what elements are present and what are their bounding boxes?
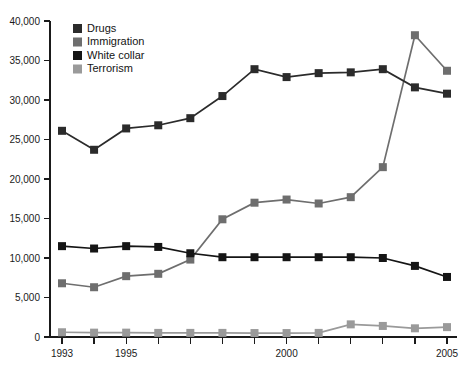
- chart-legend: DrugsImmigrationWhite collarTerrorism: [73, 22, 145, 75]
- data-point-marker: [315, 199, 323, 207]
- x-axis-tick-label: 2005: [436, 348, 459, 359]
- data-point-marker: [251, 329, 259, 337]
- y-axis-tick-label: 20,000: [9, 174, 40, 185]
- data-point-marker: [283, 253, 291, 261]
- series-drugs: [58, 65, 451, 154]
- y-axis-tick-label: 5,000: [15, 292, 40, 303]
- y-axis-ticks: 05,00010,00015,00020,00025,00030,00035,0…: [9, 16, 50, 343]
- data-point-marker: [154, 329, 162, 337]
- data-point-marker: [347, 68, 355, 76]
- data-point-marker: [347, 320, 355, 328]
- data-point-marker: [315, 253, 323, 261]
- data-point-marker: [58, 279, 66, 287]
- data-point-marker: [154, 243, 162, 251]
- data-point-marker: [379, 65, 387, 73]
- data-point-marker: [122, 272, 130, 280]
- data-point-marker: [218, 253, 226, 261]
- y-axis-tick-label: 40,000: [9, 16, 40, 27]
- data-point-marker: [411, 324, 419, 332]
- data-point-marker: [218, 92, 226, 100]
- legend-swatch: [73, 24, 82, 33]
- line-chart: 05,00010,00015,00020,00025,00030,00035,0…: [0, 0, 472, 370]
- x-axis-tick-label: 1995: [115, 348, 138, 359]
- data-point-marker: [251, 65, 259, 73]
- data-point-marker: [347, 193, 355, 201]
- legend-swatch: [73, 65, 82, 74]
- series-white-collar: [58, 242, 451, 281]
- data-point-marker: [186, 114, 194, 122]
- data-point-marker: [58, 242, 66, 250]
- legend-item-white-collar: White collar: [73, 49, 145, 61]
- data-point-marker: [90, 245, 98, 253]
- y-axis-tick-label: 10,000: [9, 253, 40, 264]
- data-point-marker: [283, 329, 291, 337]
- chart-plot-area: 05,00010,00015,00020,00025,00030,00035,0…: [0, 0, 472, 370]
- data-point-marker: [379, 322, 387, 330]
- series-terrorism: [58, 320, 451, 337]
- data-point-marker: [315, 329, 323, 337]
- data-point-marker: [411, 262, 419, 270]
- data-point-marker: [411, 31, 419, 39]
- y-axis-tick-label: 15,000: [9, 213, 40, 224]
- data-point-marker: [58, 127, 66, 135]
- data-point-marker: [443, 273, 451, 281]
- data-point-marker: [154, 270, 162, 278]
- x-axis-tick-label: 1993: [51, 348, 74, 359]
- data-point-marker: [218, 329, 226, 337]
- data-point-marker: [379, 254, 387, 262]
- x-axis-ticks: 1993199520002005: [51, 337, 459, 359]
- y-axis-tick-label: 35,000: [9, 55, 40, 66]
- legend-swatch: [73, 38, 82, 47]
- data-point-marker: [186, 329, 194, 337]
- y-axis-tick-label: 25,000: [9, 134, 40, 145]
- x-axis-tick-label: 2000: [275, 348, 298, 359]
- legend-label: White collar: [87, 49, 145, 61]
- data-point-marker: [90, 146, 98, 154]
- data-point-marker: [186, 249, 194, 257]
- legend-label: Immigration: [87, 35, 144, 47]
- data-point-marker: [218, 215, 226, 223]
- legend-label: Terrorism: [87, 62, 133, 74]
- y-axis-tick-label: 30,000: [9, 95, 40, 106]
- data-point-marker: [90, 329, 98, 337]
- data-point-marker: [443, 67, 451, 75]
- data-point-marker: [347, 253, 355, 261]
- legend-swatch: [73, 51, 82, 60]
- data-point-marker: [379, 163, 387, 171]
- data-point-marker: [443, 90, 451, 98]
- data-point-marker: [90, 283, 98, 291]
- data-point-marker: [122, 242, 130, 250]
- legend-item-drugs: Drugs: [73, 22, 117, 34]
- data-point-marker: [315, 69, 323, 77]
- data-point-marker: [411, 83, 419, 91]
- data-point-marker: [283, 196, 291, 204]
- legend-label: Drugs: [87, 22, 117, 34]
- data-point-marker: [58, 328, 66, 336]
- y-axis-tick-label: 0: [34, 332, 40, 343]
- data-point-marker: [122, 329, 130, 337]
- data-point-marker: [443, 323, 451, 331]
- data-point-marker: [154, 121, 162, 129]
- data-point-marker: [283, 73, 291, 81]
- legend-item-terrorism: Terrorism: [73, 62, 133, 74]
- legend-item-immigration: Immigration: [73, 35, 144, 47]
- data-point-marker: [122, 124, 130, 132]
- data-point-marker: [251, 253, 259, 261]
- data-point-marker: [251, 199, 259, 207]
